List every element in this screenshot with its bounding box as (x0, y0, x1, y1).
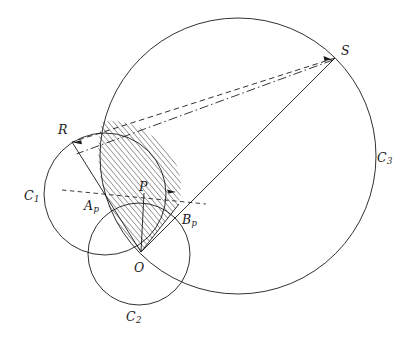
label-point-s: S (341, 45, 350, 58)
label-point-p: P (139, 181, 147, 194)
label-point-o: O (134, 262, 144, 275)
label-circle-c2: C2 (126, 311, 141, 325)
label-point-r: R (58, 124, 67, 137)
geometry-canvas (0, 0, 412, 338)
label-point-ap: Ap (84, 200, 99, 214)
label-circle-c3: C3 (377, 152, 392, 166)
label-circle-c1: C1 (24, 190, 39, 204)
geometry-figure: C1 C2 C3 R S O P Ap Bp (0, 0, 412, 338)
label-point-bp: Bp (182, 214, 197, 228)
